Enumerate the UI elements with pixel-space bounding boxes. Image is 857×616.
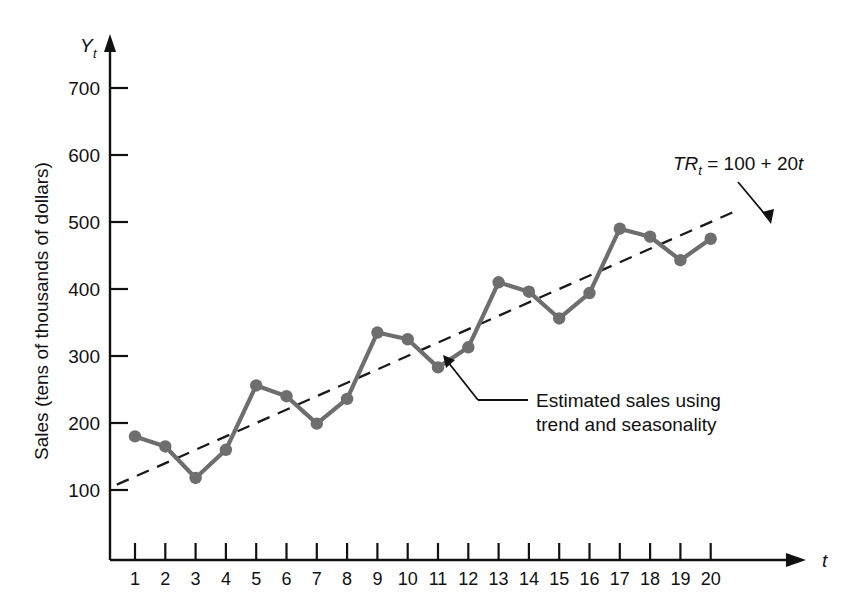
x-axis bbox=[110, 553, 806, 567]
x-tick-label: 4 bbox=[221, 569, 231, 589]
x-tick-label: 1 bbox=[130, 569, 140, 589]
x-tick-label: 19 bbox=[670, 569, 690, 589]
data-point-marker bbox=[250, 379, 262, 391]
x-tick-label: 5 bbox=[251, 569, 261, 589]
y-tick-labels: 700 600 500 400 300 200 100 bbox=[68, 78, 100, 501]
data-point-marker bbox=[220, 444, 232, 456]
y-tick-label: 400 bbox=[68, 279, 100, 300]
x-tick-label: 13 bbox=[489, 569, 509, 589]
x-tick-label: 14 bbox=[519, 569, 539, 589]
equation-tail: t bbox=[798, 153, 804, 174]
chart-figure: Sales (tens of thousands of dollars) Y t… bbox=[0, 0, 857, 616]
y-tick-label: 700 bbox=[68, 78, 100, 99]
y-tick-label: 300 bbox=[68, 346, 100, 367]
data-point-marker bbox=[674, 254, 686, 266]
trend-line bbox=[117, 211, 735, 484]
x-ticks bbox=[135, 543, 711, 560]
x-tick-label: 7 bbox=[312, 569, 322, 589]
y-axis bbox=[104, 34, 116, 560]
x-tick-label: 2 bbox=[160, 569, 170, 589]
data-point-marker bbox=[371, 326, 383, 338]
x-tick-label: 3 bbox=[191, 569, 201, 589]
x-tick-label: 10 bbox=[398, 569, 418, 589]
data-point-marker bbox=[189, 472, 201, 484]
chart-canvas: Y t t 700 600 500 400 300 200 100 123456… bbox=[0, 0, 857, 616]
y-ticks bbox=[110, 88, 128, 490]
equation-tr: TR bbox=[673, 153, 699, 174]
x-tick-label: 9 bbox=[372, 569, 382, 589]
trend-equation-annotation: TRt = 100 + 20t bbox=[673, 153, 804, 224]
estimated-sales-line2: trend and seasonality bbox=[536, 414, 717, 435]
data-point-marker bbox=[129, 430, 141, 442]
x-tick-label: 6 bbox=[281, 569, 291, 589]
data-point-marker bbox=[311, 417, 323, 429]
x-tick-label: 16 bbox=[579, 569, 599, 589]
data-point-marker bbox=[159, 440, 171, 452]
x-tick-label: 11 bbox=[429, 569, 448, 589]
y-tick-label: 500 bbox=[68, 212, 100, 233]
y-tick-label: 600 bbox=[68, 145, 100, 166]
data-point-marker bbox=[432, 361, 444, 373]
data-point-marker bbox=[492, 276, 504, 288]
estimated-sales-annotation: Estimated sales using trend and seasonal… bbox=[443, 355, 721, 435]
y-axis-symbol: Y t bbox=[80, 35, 98, 61]
x-tick-label: 15 bbox=[549, 569, 569, 589]
x-tick-label: 8 bbox=[342, 569, 352, 589]
data-point-marker bbox=[280, 390, 292, 402]
x-tick-label: 18 bbox=[640, 569, 660, 589]
data-point-marker bbox=[341, 393, 353, 405]
x-axis-symbol-text: t bbox=[822, 550, 828, 571]
y-axis-symbol-text: Y bbox=[80, 35, 94, 56]
equation-rest: = 100 + 20 bbox=[702, 153, 798, 174]
y-tick-label: 100 bbox=[68, 480, 100, 501]
data-point-marker bbox=[402, 333, 414, 345]
data-point-marker bbox=[644, 231, 656, 243]
data-point-marker bbox=[462, 341, 474, 353]
trend-equation-text: TRt = 100 + 20t bbox=[673, 153, 804, 178]
data-point-marker bbox=[523, 285, 535, 297]
data-point-marker bbox=[705, 233, 717, 245]
data-point-marker bbox=[614, 223, 626, 235]
y-axis-symbol-subscript: t bbox=[93, 46, 98, 61]
x-tick-label: 17 bbox=[610, 569, 630, 589]
sales-series bbox=[129, 223, 717, 485]
data-point-marker bbox=[583, 287, 595, 299]
y-tick-label: 200 bbox=[68, 413, 100, 434]
x-tick-label: 12 bbox=[458, 569, 478, 589]
x-tick-label: 20 bbox=[701, 569, 721, 589]
estimated-sales-line1: Estimated sales using bbox=[536, 390, 721, 411]
x-tick-labels: 1234567891011121314151617181920 bbox=[130, 569, 721, 589]
data-point-marker bbox=[553, 312, 565, 324]
